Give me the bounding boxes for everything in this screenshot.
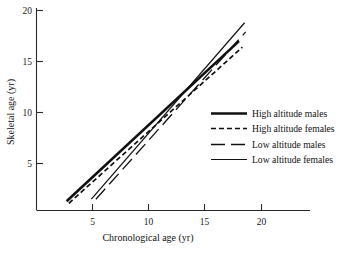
y-tick-label-5: 5 [27,159,32,169]
legend-label-low-altitude-males: Low altitude males [252,139,326,150]
legend-label-high-altitude-females: High altitude females [252,123,335,134]
x-axis-ticks: 5 10 15 20 [90,204,266,227]
y-axis-ticks: 20 15 10 5 [23,6,44,169]
x-tick-label-20: 20 [257,217,267,227]
x-axis-title: Chronological age (yr) [102,232,193,244]
series-line-high-altitude-males [67,41,239,201]
legend-label-low-altitude-females: Low altitude females [252,154,333,165]
series-line-low-altitude-females [91,23,244,199]
y-tick-label-10: 10 [23,108,33,118]
x-tick-label-5: 5 [90,217,95,227]
legend-item-low-altitude-females: Low altitude females [211,154,333,165]
series-line-low-altitude-males [96,32,246,199]
legend-item-high-altitude-females: High altitude females [211,123,335,134]
x-tick-label-15: 15 [200,217,210,227]
chart-legend: High altitude males High altitude female… [211,108,335,165]
y-axis-title: Skeletal age (yr) [5,79,17,145]
y-tick-label-15: 15 [23,57,33,67]
legend-item-high-altitude-males: High altitude males [211,108,327,119]
legend-item-low-altitude-males: Low altitude males [211,139,326,150]
legend-label-high-altitude-males: High altitude males [252,108,327,119]
x-tick-label-10: 10 [144,217,154,227]
chart-figure: 20 15 10 5 5 10 15 20 Chronological age … [0,0,340,270]
skeletal-age-vs-chronological-age-chart: 20 15 10 5 5 10 15 20 Chronological age … [0,0,340,270]
y-tick-label-20: 20 [23,6,33,16]
